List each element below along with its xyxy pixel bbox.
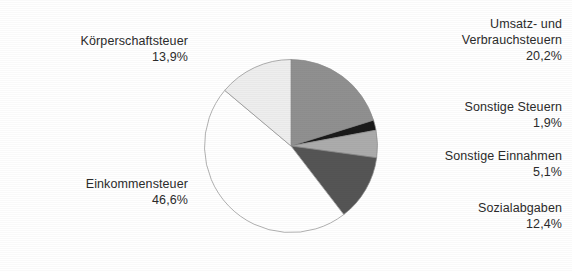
pie-chart-svg [204,59,378,233]
slice-label-sozialabgaben: Sozialabgaben 12,4% [396,200,562,232]
slice-label-einkommensteuer-value: 46,6% [22,192,188,208]
slice-label-koerperschaftsteuer: Körperschaftsteuer 13,9% [28,33,188,65]
slice-label-einkommensteuer-name: Einkommensteuer [22,176,188,192]
slice-label-umsatz-und-verbrauchsteuern: Umsatz- und Verbrauchsteuern 20,2% [396,16,562,64]
slice-label-sonstige-einnahmen: Sonstige Einnahmen 5,1% [396,148,562,180]
slice-label-koerperschaftsteuer-name: Körperschaftsteuer [28,33,188,49]
slice-label-sonstige-einnahmen-name: Sonstige Einnahmen [396,148,562,164]
pie-slice-group [205,60,378,233]
slice-label-sonstige-steuern: Sonstige Steuern 1,9% [396,99,562,131]
slice-label-sonstige-steuern-value: 1,9% [396,115,562,131]
slice-label-sonstige-einnahmen-value: 5,1% [396,164,562,180]
slice-label-umsatz-line2: Verbrauchsteuern [396,32,562,48]
slice-label-einkommensteuer: Einkommensteuer 46,6% [22,176,188,208]
slice-label-umsatz-line1: Umsatz- und [396,16,562,32]
slice-label-umsatz-value: 20,2% [396,48,562,64]
pie-chart [204,59,378,233]
slice-label-koerperschaftsteuer-value: 13,9% [28,49,188,65]
pie-chart-screenshot: Körperschaftsteuer 13,9% Umsatz- und Ver… [0,0,572,271]
slice-label-sozialabgaben-value: 12,4% [396,216,562,232]
slice-label-sozialabgaben-name: Sozialabgaben [396,200,562,216]
slice-label-sonstige-steuern-name: Sonstige Steuern [396,99,562,115]
